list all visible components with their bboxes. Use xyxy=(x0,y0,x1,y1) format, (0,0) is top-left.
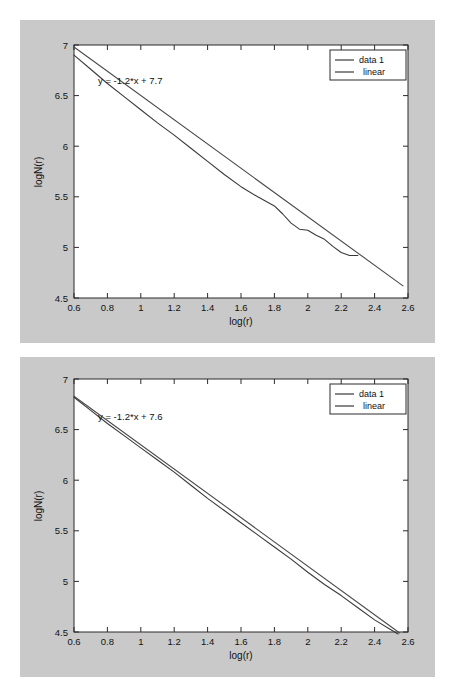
y-tick-label: 4.5 xyxy=(55,293,68,304)
y-tick-label: 6.5 xyxy=(55,424,68,435)
chart-figure-top: 0.60.811.21.41.61.822.22.42.6 76.565.554… xyxy=(20,20,435,343)
x-axis-title-bottom: log(r) xyxy=(229,650,252,661)
legend-top: data 1 linear xyxy=(330,50,406,80)
y-tick-labels-bottom: 76.565.554.5 xyxy=(55,374,68,638)
chart-top-canvas: 0.60.811.21.41.61.822.22.42.6 76.565.554… xyxy=(20,20,435,343)
x-tick-label: 2.2 xyxy=(335,636,348,647)
y-tick-labels-top: 76.565.554.5 xyxy=(55,40,68,304)
x-tick-label: 0.8 xyxy=(101,636,114,647)
x-tick-label: 2.4 xyxy=(368,636,381,647)
legend-label-linear-bottom: linear xyxy=(363,401,385,411)
y-axis-title-top: logN(r) xyxy=(33,157,44,188)
x-tick-label: 2 xyxy=(305,636,310,647)
x-tick-label: 1.2 xyxy=(168,636,181,647)
x-tick-label: 1 xyxy=(138,636,143,647)
x-axis-title-top: log(r) xyxy=(229,316,252,327)
y-tick-label: 4.5 xyxy=(55,627,68,638)
y-tick-label: 5 xyxy=(63,576,68,587)
legend-label-data-bottom: data 1 xyxy=(359,389,384,399)
equation-annotation-bottom: y = -1.2*x + 7.6 xyxy=(98,411,162,422)
y-axis-title-bottom: logN(r) xyxy=(33,491,44,522)
figure-page: 0.60.811.21.41.61.822.22.42.6 76.565.554… xyxy=(0,0,455,697)
x-tick-label: 2.2 xyxy=(335,302,348,313)
y-tick-label: 6 xyxy=(63,141,68,152)
x-tick-label: 1.8 xyxy=(268,302,281,313)
y-tick-label: 6 xyxy=(63,475,68,486)
y-tick-label: 5.5 xyxy=(55,191,68,202)
legend-label-linear-top: linear xyxy=(363,67,385,77)
x-tick-label: 0.8 xyxy=(101,302,114,313)
y-tick-label: 5.5 xyxy=(55,525,68,536)
y-tick-label: 7 xyxy=(63,40,68,51)
equation-annotation-top: y = -1.2*x + 7.7 xyxy=(98,75,162,86)
x-tick-label: 1.8 xyxy=(268,636,281,647)
x-tick-labels-top: 0.60.811.21.41.61.822.22.42.6 xyxy=(67,302,414,313)
x-tick-label: 2.4 xyxy=(368,302,381,313)
x-tick-label: 2 xyxy=(305,302,310,313)
x-tick-label: 1.6 xyxy=(234,636,247,647)
y-tick-label: 5 xyxy=(63,242,68,253)
y-tick-label: 6.5 xyxy=(55,90,68,101)
legend-bottom: data 1 linear xyxy=(330,384,406,414)
chart-figure-bottom: 0.60.811.21.41.61.822.22.42.6 76.565.554… xyxy=(20,357,435,677)
x-tick-label: 0.6 xyxy=(67,636,80,647)
x-tick-label: 1.2 xyxy=(168,302,181,313)
x-tick-label: 1 xyxy=(138,302,143,313)
x-tick-label: 1.6 xyxy=(234,302,247,313)
x-tick-label: 2.6 xyxy=(401,302,414,313)
x-tick-labels-bottom: 0.60.811.21.41.61.822.22.42.6 xyxy=(67,636,414,647)
legend-label-data-top: data 1 xyxy=(359,55,384,65)
x-tick-label: 2.6 xyxy=(401,636,414,647)
y-tick-label: 7 xyxy=(63,374,68,385)
chart-bottom-canvas: 0.60.811.21.41.61.822.22.42.6 76.565.554… xyxy=(20,357,435,677)
x-tick-label: 0.6 xyxy=(67,302,80,313)
x-tick-label: 1.4 xyxy=(201,636,214,647)
x-tick-label: 1.4 xyxy=(201,302,214,313)
